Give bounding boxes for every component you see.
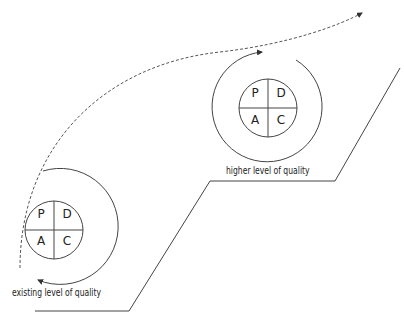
quality-staircase-line <box>35 68 400 311</box>
quadrant-plan: P <box>248 86 262 100</box>
quadrant-check: C <box>60 234 74 248</box>
diagram-graphics <box>0 0 404 322</box>
quadrant-act: A <box>34 234 48 248</box>
existing-cycle-arrow-arc <box>38 168 118 284</box>
quadrant-plan: P <box>34 207 48 221</box>
higher-cycle-arrow-arc <box>212 52 322 162</box>
quadrant-check: C <box>274 113 288 127</box>
higher-level-label: higher level of quality <box>226 165 310 176</box>
existing-level-label: existing level of quality <box>12 287 101 298</box>
pdca-diagram: P D A C P D A C existing level of qualit… <box>0 0 404 322</box>
quadrant-act: A <box>248 113 262 127</box>
quadrant-do: D <box>274 86 288 100</box>
quadrant-do: D <box>60 207 74 221</box>
